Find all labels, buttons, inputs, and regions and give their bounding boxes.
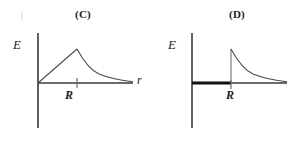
panel-c-curve-outside xyxy=(77,49,133,82)
panel-c-tick-label-R: R xyxy=(65,89,73,102)
panel-d-y-axis-label: E xyxy=(168,38,176,51)
panel-d-tick-label-R: R xyxy=(226,89,234,102)
panel-d: (D) E R xyxy=(154,0,308,159)
panel-d-curve-outside xyxy=(231,49,287,82)
panel-c-curve-inside xyxy=(38,49,77,83)
panel-c-plot xyxy=(0,0,154,159)
panel-c-x-axis-label: r xyxy=(137,74,142,87)
panel-d-plot xyxy=(154,0,308,159)
panel-c-y-axis-label: E xyxy=(13,38,21,51)
physics-figure: (C) E r R (D) xyxy=(0,0,308,159)
panel-c: (C) E r R xyxy=(0,0,154,159)
